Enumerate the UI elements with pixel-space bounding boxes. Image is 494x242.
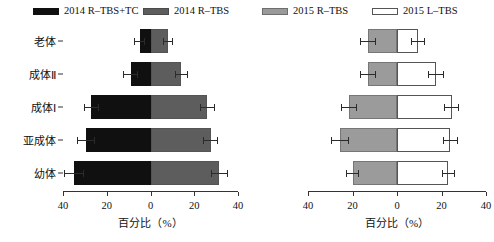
bar-white[interactable] [397,161,448,185]
legend-label: 2014 R–TBS [174,5,229,17]
error-bar [360,41,376,42]
error-bar [411,41,424,42]
category-tick [58,140,63,141]
bar-row [308,62,486,86]
bar-black[interactable] [91,95,150,119]
x-axis-tick [194,192,195,196]
category-tick [58,107,63,108]
error-bar [331,140,349,141]
x-axis-tick [238,192,239,196]
bar-darkgray[interactable] [151,128,211,152]
category-label: 成体Ⅰ [31,99,56,115]
category-tick [58,74,63,75]
x-axis-title: 百分比（%） [308,214,486,230]
bar-black[interactable] [74,161,151,185]
x-axis-tick [397,192,398,196]
bar-row [308,128,486,152]
error-bar [443,140,459,141]
error-bar [346,173,359,174]
mid-gray-swatch-icon [262,8,288,15]
bar-row [63,29,238,53]
legend-item-2015-r-tbs: 2015 R–TBS [262,5,348,17]
category-label: 幼体 [34,165,56,181]
left-plot-area: 百分比（%） 402002040 [63,26,238,192]
right-chart-panel: 百分比（%） 402002040 [250,26,494,216]
bar-row [308,161,486,185]
bar-black[interactable] [86,128,151,152]
error-bar [211,173,229,174]
right-plot-area: 百分比（%） 402002040 [308,26,486,192]
error-bar [428,74,444,75]
bar-row [63,161,238,185]
error-bar [134,41,145,42]
x-axis-tick-label: 20 [92,200,122,211]
x-axis-tick [353,192,354,196]
x-axis-tick [63,192,64,196]
dark-gray-swatch-icon [143,8,169,15]
error-bar [84,107,99,108]
category-label: 老体 [34,33,56,49]
error-bar [175,74,188,75]
error-bar [341,107,357,108]
x-axis-tick [486,192,487,196]
legend-label: 2015 R–TBS [293,5,348,17]
error-bar [64,173,84,174]
legend-item-2015-l-tbs: 2015 L–TBS [372,5,458,17]
legend-label: 2015 L–TBS [403,5,458,17]
x-axis-tick-label: 0 [382,200,412,211]
x-axis-tick-label: 40 [223,200,253,211]
x-axis-tick-label: 0 [136,200,166,211]
category-label: 亚成体 [23,132,56,148]
bar-row [63,128,238,152]
x-axis-tick-label: 20 [338,200,368,211]
error-bar [163,41,174,42]
category-label: 成体Ⅱ [29,66,56,82]
bar-row [308,29,486,53]
error-bar [123,74,138,75]
x-axis-title: 百分比（%） [63,214,238,230]
legend-label: 2014 R–TBS+TC [64,5,138,17]
x-axis-tick-label: 40 [293,200,323,211]
x-axis-tick-label: 40 [48,200,78,211]
x-axis-tick [107,192,108,196]
x-axis-tick [151,192,152,196]
bar-row [63,95,238,119]
x-axis-tick [308,192,309,196]
error-bar [77,140,95,141]
bar-darkgray[interactable] [151,161,220,185]
x-axis-tick-label: 20 [427,200,457,211]
category-tick [58,41,63,42]
population-pyramid-figure: 2014 R–TBS+TC 2014 R–TBS 2015 R–TBS 2015… [0,0,494,242]
error-bar [442,173,455,174]
white-swatch-icon [372,8,398,15]
bar-row [63,62,238,86]
error-bar [203,140,218,141]
bar-midgray[interactable] [353,161,398,185]
black-swatch-icon [33,8,59,15]
left-chart-panel: 百分比（%） 402002040 老体成体Ⅱ成体Ⅰ亚成体幼体 [0,26,250,216]
error-bar [200,107,215,108]
x-axis-tick-label: 20 [179,200,209,211]
x-axis-tick [442,192,443,196]
error-bar [360,74,376,75]
legend-item-2014-r-tbs-tc: 2014 R–TBS+TC [33,5,138,17]
legend-item-2014-r-tbs: 2014 R–TBS [143,5,229,17]
category-tick [58,173,63,174]
x-axis-tick-label: 40 [471,200,494,211]
bar-row [308,95,486,119]
error-bar [444,107,460,108]
legend: 2014 R–TBS+TC 2014 R–TBS 2015 R–TBS 2015… [0,4,494,22]
